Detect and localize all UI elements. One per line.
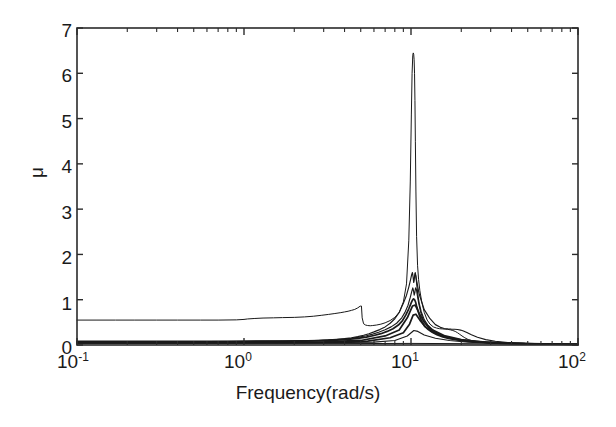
- series-curve-peak-1p0: [77, 299, 578, 345]
- x-axis-label: Frequency(rad/s): [0, 382, 616, 404]
- xtick-label-2: 101: [391, 352, 419, 371]
- axes-group: [77, 28, 578, 345]
- series-curve-peak-1p25: [77, 288, 578, 344]
- xtick-label-3: 102: [558, 352, 586, 371]
- ytick-label-1: 1: [38, 294, 72, 313]
- xtick-label-1: 100: [224, 352, 252, 371]
- chart-figure: 7 6 5 4 3 2 1 0 10-1 100 101 102 Frequen…: [0, 0, 616, 427]
- xtick-mantissa-2: 10: [391, 351, 412, 372]
- xtick-label-0: 10-1: [57, 352, 89, 371]
- xtick-exponent-2: 1: [412, 350, 419, 364]
- ytick-label-3: 3: [38, 203, 72, 222]
- xtick-mantissa-1: 10: [224, 351, 245, 372]
- y-axis-label: μ: [26, 167, 48, 178]
- ytick-label-2: 2: [38, 248, 72, 267]
- xtick-mantissa-0: 10: [57, 351, 78, 372]
- ytick-label-7: 7: [38, 21, 72, 40]
- series-upper-bound-curve: [77, 53, 578, 345]
- plot-box: [77, 28, 578, 345]
- xtick-mantissa-3: 10: [558, 351, 579, 372]
- plot-canvas: [0, 0, 616, 427]
- xtick-exponent-0: -1: [78, 350, 89, 364]
- xtick-exponent-1: 0: [245, 350, 252, 364]
- xtick-exponent-3: 2: [579, 350, 586, 364]
- ytick-label-6: 6: [38, 66, 72, 85]
- series-curve-peak-1p6: [77, 273, 578, 345]
- series-group: [77, 53, 578, 345]
- ytick-label-5: 5: [38, 112, 72, 131]
- series-baseline-curve-a: [77, 305, 578, 344]
